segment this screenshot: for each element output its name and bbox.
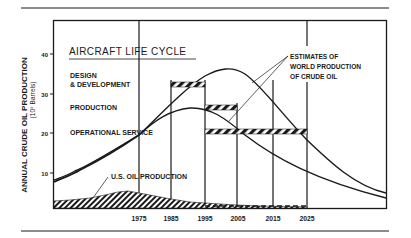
design-label-2: & DEVELOPMENT	[70, 81, 131, 88]
chart-title: AIRCRAFT LIFE CYCLE	[69, 46, 186, 57]
design-development-bar	[171, 82, 205, 87]
production-bar	[205, 105, 237, 110]
ytick-30: 30	[41, 92, 48, 98]
estimates-pointer-lines	[229, 56, 288, 121]
design-label-1: DESIGN	[70, 72, 97, 79]
xtick-2025: 2025	[299, 215, 314, 222]
xtick-1985: 1985	[163, 215, 178, 222]
us-oil-label: U.S. OIL PRODUCTION	[111, 173, 187, 180]
estimates-label-2: WORLD PRODUCTION	[290, 63, 361, 70]
operational-label: OPERATIONAL SERVICE	[70, 129, 153, 136]
y-axis-units: (10⁹ Barrels)	[29, 82, 37, 119]
xtick-2005: 2005	[230, 215, 245, 222]
estimates-label-3: OF CRUDE OIL	[290, 73, 337, 80]
ytick-20: 20	[41, 131, 48, 137]
estimates-label-1: ESTIMATES OF	[290, 53, 338, 60]
ytick-40: 40	[41, 52, 48, 58]
world-production-low-curve	[139, 108, 386, 198]
xtick-1975: 1975	[131, 215, 146, 222]
ytick-10: 10	[41, 171, 48, 177]
chart: 40 30 20 10 ANNUAL CRUDE OIL PRODUCTION …	[0, 0, 411, 238]
operational-service-bar	[205, 129, 307, 134]
xtick-1995: 1995	[197, 215, 212, 222]
xtick-2015: 2015	[265, 215, 280, 222]
y-axis-label: ANNUAL CRUDE OIL PRODUCTION	[20, 57, 29, 193]
production-label: PRODUCTION	[70, 104, 117, 111]
